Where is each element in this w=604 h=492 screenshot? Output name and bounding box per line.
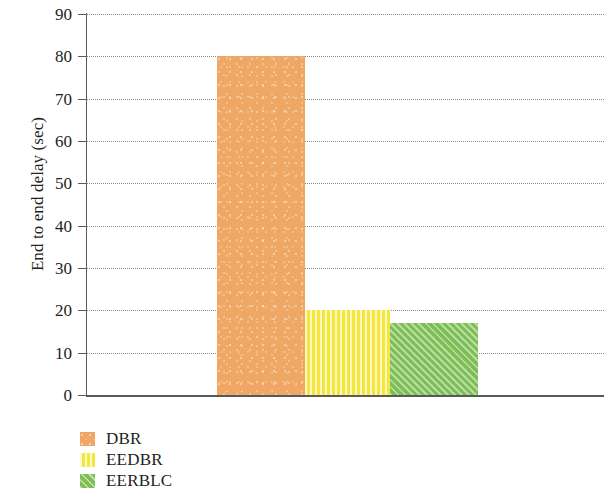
y-tick-label-0: 0 (32, 387, 72, 404)
legend-label-eerblc: EERBLC (106, 472, 172, 489)
y-tick-mark-20 (78, 310, 86, 311)
legend-label-eedbr: EEDBR (106, 451, 163, 468)
x-axis-line (86, 395, 604, 397)
legend: DBR EEDBR EERBLC (80, 428, 172, 491)
y-tick-label-20: 20 (32, 302, 72, 319)
gridline-40 (86, 226, 604, 228)
y-tick-label-50: 50 (32, 175, 72, 192)
gridline-60 (86, 141, 604, 143)
y-tick-mark-60 (78, 141, 86, 142)
y-axis-tick-labels: 90 80 70 60 50 40 30 20 10 0 (22, 0, 72, 492)
y-tick-mark-30 (78, 268, 86, 269)
y-tick-label-70: 70 (32, 91, 72, 108)
legend-swatch-eedbr-icon (80, 453, 95, 467)
gridline-80 (86, 56, 604, 58)
bar-eerblc (390, 323, 478, 395)
legend-label-dbr: DBR (106, 430, 142, 447)
y-tick-mark-80 (78, 56, 86, 57)
y-tick-label-10: 10 (32, 345, 72, 362)
gridline-50 (86, 183, 604, 185)
y-tick-label-40: 40 (32, 218, 72, 235)
y-tick-label-90: 90 (32, 6, 72, 23)
y-tick-mark-90 (78, 14, 86, 15)
y-tick-mark-70 (78, 99, 86, 100)
gridline-90 (86, 14, 604, 16)
y-tick-mark-10 (78, 353, 86, 354)
gridline-70 (86, 99, 604, 101)
legend-swatch-dbr-icon (80, 432, 95, 446)
legend-item-dbr: DBR (80, 428, 172, 449)
y-tick-mark-0 (78, 395, 86, 396)
y-tick-label-80: 80 (32, 48, 72, 65)
legend-swatch-eerblc-icon (80, 474, 95, 488)
legend-item-eerblc: EERBLC (80, 470, 172, 491)
y-tick-mark-50 (78, 183, 86, 184)
bar-chart-figure: End to end delay (sec) 90 80 70 60 50 40… (0, 0, 604, 492)
bar-eedbr (305, 310, 390, 395)
y-tick-label-60: 60 (32, 133, 72, 150)
legend-item-eedbr: EEDBR (80, 449, 172, 470)
gridline-30 (86, 268, 604, 270)
y-tick-label-30: 30 (32, 260, 72, 277)
plot-area (86, 14, 604, 395)
bar-dbr (217, 56, 305, 395)
y-tick-mark-40 (78, 226, 86, 227)
